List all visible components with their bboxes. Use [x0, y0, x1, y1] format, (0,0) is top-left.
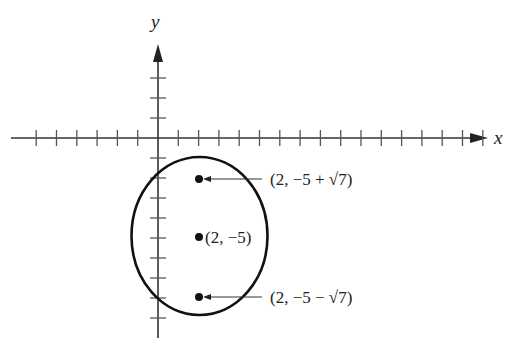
point-center: (2, −5) [195, 228, 251, 247]
y-axis-arrow-icon [153, 44, 163, 62]
point-upper-focus: (2, −5 + √7) [195, 170, 352, 189]
y-axis-label: y [149, 11, 160, 32]
point-dot-icon [195, 175, 203, 183]
point-label-center: (2, −5) [205, 228, 251, 247]
pointer-arrow-icon [203, 294, 211, 300]
pointer-arrow-icon [203, 176, 211, 182]
point-label-upper: (2, −5 + √7) [270, 170, 352, 189]
point-label-lower: (2, −5 − √7) [270, 288, 352, 307]
x-axis [11, 130, 488, 146]
coordinate-diagram: x y (2, −5 + √7) (2, −5) (2, −5 − √7) [0, 0, 517, 348]
x-axis-label: x [493, 127, 503, 148]
point-lower-focus: (2, −5 − √7) [195, 288, 352, 307]
point-dot-icon [195, 293, 203, 301]
point-dot-icon [195, 233, 203, 241]
x-axis-arrow-icon [470, 133, 488, 143]
